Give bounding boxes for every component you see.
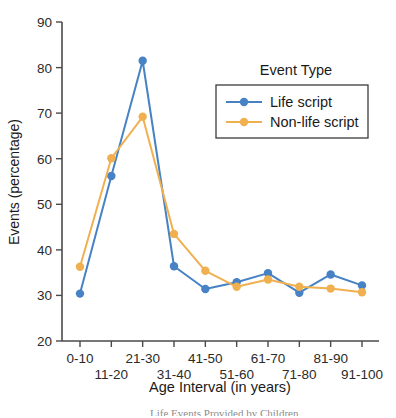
data-point[interactable] bbox=[358, 288, 366, 296]
x-axis-tick-labels: 0-1011-2021-3031-4041-5051-6061-7071-808… bbox=[66, 351, 383, 382]
legend-label: Life script bbox=[270, 94, 332, 110]
legend-title: Event Type bbox=[260, 62, 332, 78]
data-point[interactable] bbox=[201, 285, 209, 293]
chart-figure: 90 80 70 60 50 40 30 20 Events (percenta… bbox=[0, 0, 396, 418]
y-tick-label: 60 bbox=[37, 152, 52, 167]
data-point[interactable] bbox=[170, 262, 178, 270]
data-point[interactable] bbox=[107, 172, 115, 180]
chart-legend: Event Type Life script Non-life script bbox=[216, 62, 368, 138]
y-tick-label: 80 bbox=[37, 61, 52, 76]
data-point[interactable] bbox=[76, 263, 84, 271]
data-point[interactable] bbox=[264, 275, 272, 283]
series-line bbox=[80, 117, 362, 292]
x-axis-ticks bbox=[80, 341, 362, 347]
x-tick-label: 11-20 bbox=[95, 367, 129, 382]
legend-swatch-marker bbox=[240, 118, 248, 126]
data-point[interactable] bbox=[170, 230, 178, 238]
y-tick-label: 70 bbox=[37, 106, 52, 121]
legend-swatch-marker bbox=[240, 98, 248, 106]
line-chart: 90 80 70 60 50 40 30 20 Events (percenta… bbox=[0, 0, 396, 418]
series-non-life-script bbox=[76, 113, 366, 297]
x-tick-label: 21-30 bbox=[125, 351, 160, 366]
y-tick-label: 90 bbox=[37, 15, 52, 30]
y-axis-title: Events (percentage) bbox=[6, 119, 22, 245]
y-tick-label: 20 bbox=[37, 334, 52, 349]
y-tick-label: 50 bbox=[37, 197, 52, 212]
x-tick-label: 81-90 bbox=[313, 351, 348, 366]
y-tick-label: 30 bbox=[37, 288, 52, 303]
data-point[interactable] bbox=[76, 289, 84, 297]
x-axis-title: Age Interval (in years) bbox=[149, 379, 291, 395]
y-axis-tick-labels: 90 80 70 60 50 40 30 20 bbox=[37, 15, 52, 349]
x-tick-label: 0-10 bbox=[66, 351, 93, 366]
legend-box bbox=[216, 85, 368, 138]
x-tick-label: 41-50 bbox=[188, 351, 223, 366]
data-point[interactable] bbox=[326, 284, 334, 292]
y-tick-label: 40 bbox=[37, 243, 52, 258]
data-point[interactable] bbox=[295, 283, 303, 291]
legend-label: Non-life script bbox=[270, 114, 359, 130]
clipped-caption: Life Events Provided by Children bbox=[150, 407, 299, 418]
x-tick-label: 91-100 bbox=[341, 367, 383, 382]
caption-text: Life Events Provided by Children bbox=[150, 407, 299, 418]
data-point[interactable] bbox=[201, 267, 209, 275]
data-point[interactable] bbox=[138, 57, 146, 65]
data-point[interactable] bbox=[326, 270, 334, 278]
data-point[interactable] bbox=[107, 154, 115, 162]
data-point[interactable] bbox=[138, 113, 146, 121]
y-axis-ticks bbox=[56, 22, 62, 341]
data-point[interactable] bbox=[232, 283, 240, 291]
x-tick-label: 61-70 bbox=[251, 351, 286, 366]
